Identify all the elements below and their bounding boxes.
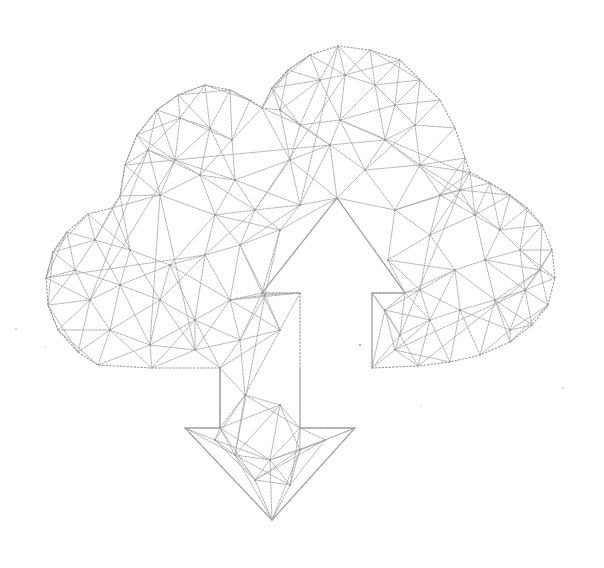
wireframe-mesh <box>46 46 555 520</box>
cloud-transfer-icon <box>0 0 604 568</box>
upload-arrow-icon <box>262 198 405 368</box>
paper-specks <box>15 328 564 407</box>
download-arrow-icon <box>185 368 355 520</box>
cloud-sync-illustration <box>0 0 604 568</box>
